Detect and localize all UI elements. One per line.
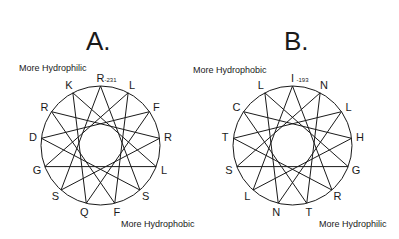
residue-number: -231 xyxy=(105,77,118,83)
residue-label: L xyxy=(258,79,264,91)
residue-connector xyxy=(73,93,86,203)
helical-wheel-b: I-193NLHGRTNLSTCL xyxy=(222,72,364,218)
residue-label: L xyxy=(161,164,167,176)
residue-label: T xyxy=(305,206,312,218)
residue-number: -193 xyxy=(297,77,310,83)
residue-label: L xyxy=(129,79,135,91)
residue-label: G xyxy=(33,164,42,176)
residue-label: F xyxy=(113,206,120,218)
residue-label: I xyxy=(291,72,294,84)
helical-wheel-diagrams: R-231LFRLSFQSGDRK I-193NLHGRTNLSTCL xyxy=(0,0,399,239)
residue-label: S xyxy=(142,190,149,202)
wheel-outline xyxy=(41,86,160,205)
residue-label: R xyxy=(41,101,49,113)
residue-label: G xyxy=(352,164,361,176)
residue-connector xyxy=(115,93,128,203)
residue-label: T xyxy=(222,131,229,143)
residue-label: L xyxy=(244,190,250,202)
residue-label: S xyxy=(52,190,59,202)
residue-label: R xyxy=(164,131,172,143)
wheel-outline xyxy=(233,86,352,205)
residue-label: S xyxy=(225,164,232,176)
helical-wheel-a: R-231LFRLSFQSGDRK xyxy=(29,72,172,218)
residue-label: N xyxy=(320,79,328,91)
residue-label: D xyxy=(29,131,37,143)
residue-label: L xyxy=(345,101,351,113)
residue-label: H xyxy=(356,131,364,143)
residue-label: Q xyxy=(80,206,89,218)
residue-label: K xyxy=(65,79,73,91)
residue-connector xyxy=(307,93,320,203)
residue-connector xyxy=(265,93,278,203)
residue-label: R xyxy=(97,72,105,84)
residue-label: R xyxy=(334,190,342,202)
residue-label: F xyxy=(153,101,160,113)
residue-label: C xyxy=(233,101,241,113)
residue-label: N xyxy=(272,206,280,218)
